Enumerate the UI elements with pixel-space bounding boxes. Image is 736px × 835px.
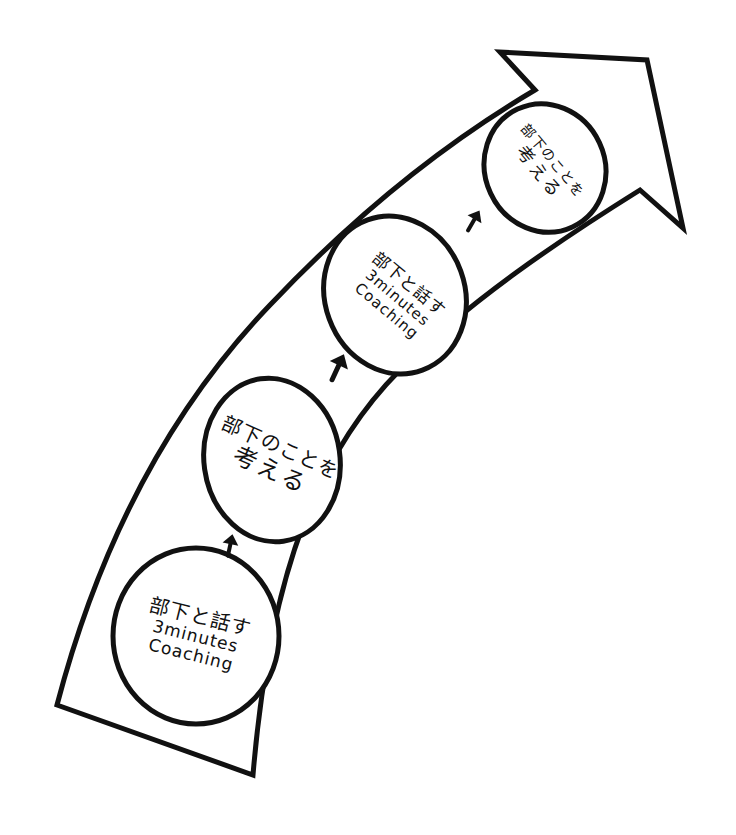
diagram-canvas [0, 0, 736, 835]
